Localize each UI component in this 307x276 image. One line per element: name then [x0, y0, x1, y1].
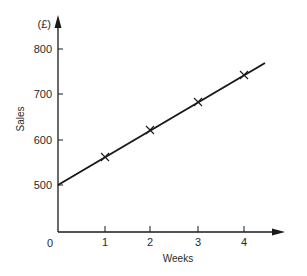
origin-label: 0	[47, 237, 53, 249]
x-tick-label-2: 2	[147, 236, 153, 248]
y-tick-label-700: 700	[34, 88, 52, 100]
x-axis-title: Weeks	[163, 253, 193, 264]
y-tick-label-500: 500	[34, 179, 52, 191]
cross-marker-week-4	[240, 71, 248, 79]
cross-marker-week-1	[101, 153, 109, 161]
y-tick-label-800: 800	[34, 43, 52, 55]
sales-line-chart: 800 700 600 500 (£) Sales 0 1 2 3 4 Week…	[0, 0, 307, 276]
y-axis-title: Sales	[15, 106, 26, 131]
y-unit-label: (£)	[38, 18, 51, 30]
x-tick-label-3: 3	[195, 236, 201, 248]
y-tick-label-600: 600	[34, 134, 52, 146]
y-ticks	[58, 49, 63, 185]
x-tick-label-4: 4	[241, 236, 247, 248]
y-axis-arrow-icon	[55, 15, 62, 28]
x-axis-arrow-icon	[272, 229, 285, 236]
sales-trend-line	[58, 63, 265, 185]
x-ticks	[105, 226, 244, 232]
x-tick-label-1: 1	[102, 236, 108, 248]
cross-marker-week-3	[194, 98, 202, 106]
